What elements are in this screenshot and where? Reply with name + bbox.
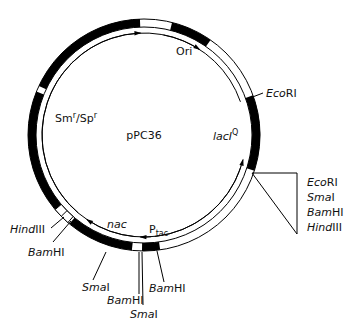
smr-spr-label: Smr/Spr [55,111,98,125]
plasmid-map: pPC36 Ori Smr/Spr lacIQ nac Ptac EcoRI E… [0,0,347,328]
ori-segment [170,22,210,46]
nac-base-arrowhead [86,219,93,225]
mcs-bamhi: BamHI [307,206,344,219]
hindiii-left-label: HindIII [10,223,45,236]
ptac-label: Ptac [149,223,168,238]
ecori-top-label: EcoRI [266,87,297,100]
inner-track [155,167,241,237]
mcs-hindiii: HindIII [307,221,342,234]
bamhi-left-label: BamHI [28,246,65,259]
hindiii-left-leader [51,217,64,228]
laciq-label: lacIQ [213,128,238,143]
ptac-arrowhead [139,235,146,239]
mcs-ecori: EcoRI [307,176,338,189]
ori-label: Ori [176,45,192,58]
bamhi-bottom-right-label: BamHI [149,282,186,295]
mcs-smai: SmaI [307,191,335,204]
smr-spr-lower-segment [28,92,61,210]
laciq-arrowhead [239,159,243,166]
nac-label: nac [107,218,127,231]
ptac-segment [142,242,160,251]
plasmid-name-label: pPC36 [126,129,161,142]
bamhi-bottom-right-leader [157,251,164,282]
mcs-site-list: EcoRI SmaI BamHI HindIII [307,176,344,234]
smai-bottom-left-label: SmaI [82,281,110,294]
smai-bottom-mid-label: SmaI [130,308,158,321]
mcs-triangle [252,173,297,234]
smr-spr-upper-segment [39,19,140,89]
bamhi-bottom-mid-label: BamHI [107,294,144,307]
smai-bottom-left-leader [93,252,106,280]
